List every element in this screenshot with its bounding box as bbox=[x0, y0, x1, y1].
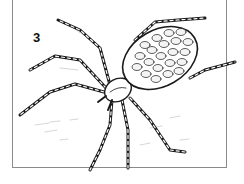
spider-illustration bbox=[0, 0, 244, 184]
figure-label: 3 bbox=[33, 30, 40, 45]
